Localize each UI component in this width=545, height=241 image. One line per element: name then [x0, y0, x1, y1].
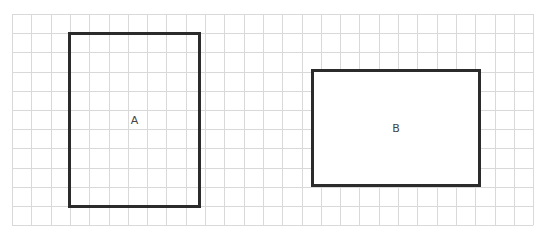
rectangle-b: B — [311, 69, 481, 187]
rectangle-a-label: A — [131, 114, 139, 127]
rectangle-a: A — [68, 32, 201, 208]
rectangle-b-label: B — [392, 122, 400, 135]
